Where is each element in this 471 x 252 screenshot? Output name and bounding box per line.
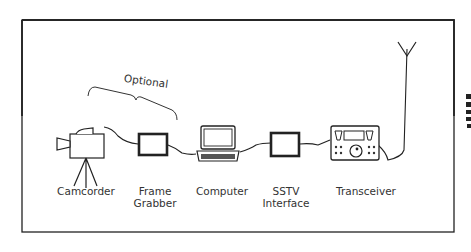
optional-bracket: Optional [88,72,177,120]
frame-grabber-box [139,134,167,155]
label-transceiver: Transceiver [335,185,397,197]
optional-label: Optional [123,72,169,90]
label-sstv-interface-1: SSTV [273,185,301,197]
diagram-frame [22,20,454,116]
radio-transceiver-icon [331,126,379,160]
clipped-caption-fragment [466,117,471,121]
sstv-interface-box [271,133,299,156]
clipped-caption-fragment [467,124,471,128]
camcorder-on-tripod-icon [57,128,104,188]
label-sstv-interface-2: Interface [262,197,309,209]
clipped-caption-fragment [466,110,471,114]
label-frame-grabber-1: Frame [139,185,172,197]
clipped-caption-fragment [466,102,471,107]
clipped-caption-fragment [466,94,471,99]
label-frame-grabber-2: Grabber [134,197,178,209]
diagram-frame-border [22,20,454,116]
label-camcorder: Camcorder [57,185,115,197]
sstv-station-diagram: Optional [0,0,471,252]
laptop-icon [197,126,239,161]
label-computer: Computer [196,185,249,197]
